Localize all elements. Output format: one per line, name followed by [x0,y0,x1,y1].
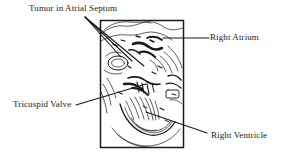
leader-line-tumor-a [85,17,144,66]
image-frame [101,21,184,148]
label-right-atrium: Right Atrium [210,32,259,42]
label-tricuspid-valve: Tricuspid Valve [13,99,71,109]
leader-line-tumor-c [85,17,132,61]
leader-line-right-ventricle [146,112,207,133]
echocardiogram-figure: Tumor in Atrial Septum Right Atrium Tric… [0,0,282,159]
leader-line-tumor-b [85,17,121,57]
label-tumor-in-atrial-septum: Tumor in Atrial Septum [29,3,117,13]
label-right-ventricle: Right Ventricle [211,130,267,140]
leader-line-tricuspid-valve [76,84,146,105]
